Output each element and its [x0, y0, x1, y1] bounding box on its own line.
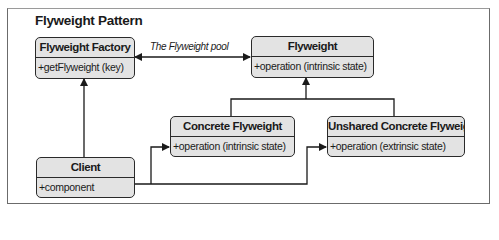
class-unshared-concrete-flyweight: Unshared Concrete Flyweight +operation (…	[327, 116, 465, 157]
class-name: Flyweight Factory	[36, 38, 134, 58]
class-member: +getFlyweight (key)	[36, 58, 134, 77]
class-name: Flyweight	[252, 37, 373, 57]
class-flyweight-factory: Flyweight Factory +getFlyweight (key)	[35, 37, 135, 79]
class-concrete-flyweight: Concrete Flyweight +operation (intrinsic…	[170, 116, 295, 157]
class-name: Unshared Concrete Flyweight	[328, 117, 464, 137]
class-member: +operation (intrinsic state)	[252, 57, 373, 76]
class-member: +operation (extrinsic state)	[328, 137, 464, 156]
class-member: +operation (intrinsic state)	[171, 137, 294, 156]
class-client: Client +component	[36, 157, 135, 198]
pool-label: The Flyweight pool	[150, 41, 229, 52]
class-member: +component	[37, 178, 134, 197]
class-name: Concrete Flyweight	[171, 117, 294, 137]
class-name: Client	[37, 158, 134, 178]
class-flyweight: Flyweight +operation (intrinsic state)	[251, 36, 374, 78]
